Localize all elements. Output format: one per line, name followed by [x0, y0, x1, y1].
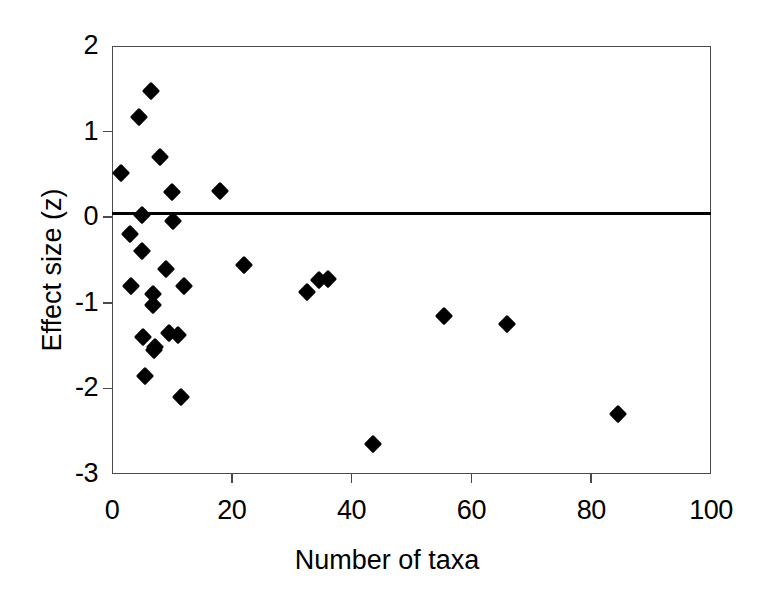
x-tick-mark	[471, 474, 473, 483]
x-tick-mark	[590, 474, 592, 483]
scatter-plot-figure: 210-1-2-3 020406080100 Effect size (z) N…	[0, 0, 774, 593]
x-tick-label: 100	[671, 497, 751, 524]
zero-reference-line	[112, 212, 711, 215]
x-tick-label: 40	[312, 497, 392, 524]
y-tick-mark	[103, 131, 112, 133]
y-tick-label: 2	[38, 32, 98, 59]
x-axis-title: Number of taxa	[0, 545, 774, 575]
x-tick-label: 60	[431, 497, 511, 524]
y-tick-mark	[103, 302, 112, 304]
x-tick-label: 20	[192, 497, 272, 524]
x-tick-mark	[351, 474, 353, 483]
y-tick-mark	[103, 216, 112, 218]
x-tick-label: 0	[72, 497, 152, 524]
y-axis-title: Effect size (z)	[37, 70, 67, 470]
x-tick-label: 80	[551, 497, 631, 524]
y-tick-mark	[103, 388, 112, 390]
x-tick-mark	[231, 474, 233, 483]
